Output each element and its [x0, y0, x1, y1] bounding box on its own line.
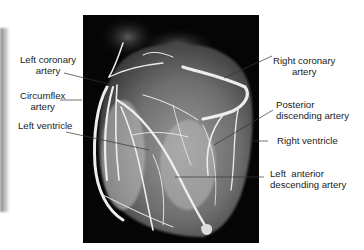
label-line: Right ventricle [277, 135, 338, 146]
angiogram-image [83, 15, 259, 243]
label-line: artery [273, 66, 335, 77]
label-line: Circumflex [20, 90, 65, 101]
label-line: artery [20, 65, 76, 76]
label-left-anterior-descending-artery: Left anterior descending artery [270, 168, 346, 190]
label-line: descending artery [270, 179, 346, 190]
label-right-ventricle: Right ventricle [277, 135, 338, 146]
label-line: artery [20, 101, 65, 112]
label-line: discending artery [276, 110, 349, 121]
label-line: Left anterior [270, 168, 346, 179]
label-line: Posterior [276, 99, 349, 110]
label-left-coronary-artery: Left coronary artery [20, 54, 76, 76]
heart-angiogram-illustration [83, 15, 259, 243]
label-right-coronary-artery: Right coronary artery [273, 55, 335, 77]
page-edge-shadow [0, 28, 9, 212]
label-posterior-descending-artery: Posterior discending artery [276, 99, 349, 121]
label-circumflex-artery: Circumflex artery [20, 90, 65, 112]
label-line: Left ventricle [18, 120, 72, 131]
label-line: Left coronary [20, 54, 76, 65]
label-line: Right coronary [273, 55, 335, 66]
label-left-ventricle: Left ventricle [18, 120, 72, 131]
